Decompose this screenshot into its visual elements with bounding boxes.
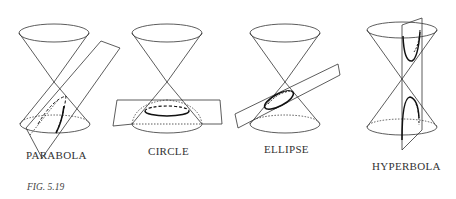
ellipse-diagram [235,24,340,133]
parabola-label: PARABOLA [26,149,87,161]
ellipse-label: ELLIPSE [264,143,309,155]
parabola-diagram [19,24,120,158]
circle-diagram [113,24,222,133]
circle-label: CIRCLE [148,145,189,157]
hyperbola-diagram [367,18,437,150]
figure-caption: FIG. 5.19 [27,182,64,192]
hyperbola-label: HYPERBOLA [372,160,441,172]
